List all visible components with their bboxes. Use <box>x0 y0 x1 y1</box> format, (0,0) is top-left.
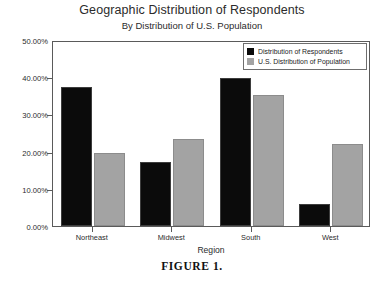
legend-swatch-icon <box>247 58 254 65</box>
y-axis-tick-label: 10.00% <box>4 185 48 194</box>
bar <box>220 78 251 226</box>
y-axis-tick-label: 30.00% <box>4 111 48 120</box>
bar <box>332 144 363 226</box>
legend-label: Distribution of Respondents <box>258 47 343 56</box>
y-axis-tick-label: 40.00% <box>4 74 48 83</box>
legend-item: Distribution of Respondents <box>247 47 363 57</box>
legend-item: U.S. Distribution of Population <box>247 57 363 67</box>
chart-title: Geographic Distribution of Respondents <box>0 3 384 17</box>
x-axis-tick-label: West <box>322 233 339 242</box>
bar <box>61 87 92 227</box>
bar-group <box>53 42 133 226</box>
y-axis-tick-label: 20.00% <box>4 148 48 157</box>
bar <box>299 204 330 226</box>
bar <box>253 95 284 226</box>
x-axis-tick-mark <box>251 227 252 232</box>
x-axis-tick-mark <box>330 227 331 232</box>
legend-label: U.S. Distribution of Population <box>258 57 350 66</box>
figure-container: Geographic Distribution of Respondents B… <box>0 0 384 281</box>
x-axis-title: Region <box>52 245 370 255</box>
y-axis-tick-label: 0.00% <box>4 223 48 232</box>
bar-group <box>133 42 213 226</box>
bars-layer <box>53 42 369 226</box>
bar <box>173 139 204 226</box>
bar-group <box>292 42 372 226</box>
chart-legend: Distribution of RespondentsU.S. Distribu… <box>243 43 367 70</box>
legend-swatch-icon <box>247 48 254 55</box>
x-axis-tick-label: Midwest <box>158 233 185 242</box>
bar <box>140 162 171 226</box>
chart-subtitle: By Distribution of U.S. Population <box>0 20 384 31</box>
x-axis-tick-mark <box>92 227 93 232</box>
x-axis-tick-label: South <box>241 233 260 242</box>
bar-group <box>212 42 292 226</box>
x-axis-tick-label: Northeast <box>76 233 108 242</box>
bar <box>94 153 125 226</box>
x-axis-tick-mark <box>171 227 172 232</box>
y-axis-tick-label: 50.00% <box>4 37 48 46</box>
figure-caption: FIGURE 1. <box>0 260 384 272</box>
